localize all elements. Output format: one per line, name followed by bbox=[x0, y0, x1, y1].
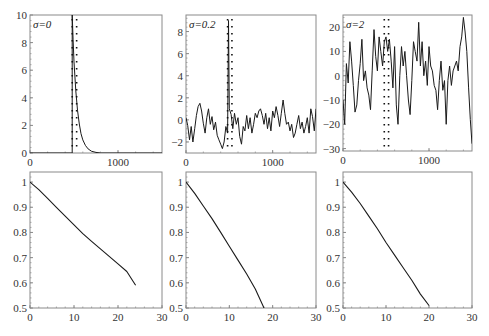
y-tick-label: 0.5 bbox=[13, 302, 27, 314]
y-tick-label: 2 bbox=[178, 92, 184, 104]
y-tick-label: 2 bbox=[22, 119, 28, 131]
y-tick-label: 0.6 bbox=[169, 277, 183, 289]
y-tick-label: 1 bbox=[335, 176, 341, 188]
y-tick-label: 0.8 bbox=[169, 226, 183, 238]
data-line bbox=[30, 15, 162, 153]
y-tick-label: 0.5 bbox=[326, 302, 340, 314]
x-tick-label: 1000 bbox=[107, 156, 130, 168]
y-tick-label: −2 bbox=[171, 136, 183, 148]
y-tick-label: 10 bbox=[329, 45, 341, 57]
y-tick-label: 6 bbox=[22, 64, 28, 76]
y-tick-label: 0.5 bbox=[169, 302, 183, 314]
x-tick-label: 1000 bbox=[418, 154, 441, 166]
x-tick-label: 1000 bbox=[262, 156, 285, 168]
plot-frame bbox=[30, 15, 162, 153]
y-tick-label: 0 bbox=[178, 114, 184, 126]
y-tick-label: 0.8 bbox=[13, 226, 27, 238]
x-tick-label: 20 bbox=[267, 311, 279, 323]
y-tick-label: 0.6 bbox=[326, 277, 340, 289]
y-tick-label: −20 bbox=[323, 118, 341, 130]
y-tick-label: 0.9 bbox=[169, 201, 183, 213]
sigma-annotation: σ=2 bbox=[346, 18, 365, 30]
y-tick-label: 20 bbox=[329, 21, 341, 33]
x-tick-label: 10 bbox=[224, 311, 236, 323]
panel-top-left: 024681001000σ=0 bbox=[16, 9, 162, 168]
plot-frame bbox=[343, 172, 472, 308]
x-tick-label: 0 bbox=[27, 311, 33, 323]
y-tick-label: 1 bbox=[178, 176, 184, 188]
x-tick-label: 10 bbox=[381, 311, 393, 323]
y-tick-label: 0.6 bbox=[13, 277, 27, 289]
y-tick-label: 4 bbox=[22, 92, 28, 104]
y-tick-label: 0 bbox=[335, 70, 341, 82]
data-line bbox=[30, 182, 136, 285]
x-tick-label: 20 bbox=[113, 311, 125, 323]
y-tick-label: 0.7 bbox=[13, 252, 27, 264]
panel-bottom-middle: 0.50.60.70.80.910102030 bbox=[169, 172, 322, 323]
y-tick-label: 0.9 bbox=[13, 201, 27, 213]
panel-top-middle: −20246801000σ=0.2 bbox=[171, 15, 316, 168]
y-tick-label: 0.9 bbox=[326, 201, 340, 213]
y-tick-label: 0.8 bbox=[326, 226, 340, 238]
data-line bbox=[343, 182, 429, 305]
plot-frame bbox=[186, 172, 316, 308]
figure: 024681001000σ=0−20246801000σ=0.2−30−20−1… bbox=[0, 0, 489, 336]
sigma-annotation: σ=0 bbox=[33, 18, 52, 30]
y-tick-label: 10 bbox=[16, 9, 28, 21]
x-tick-label: 0 bbox=[183, 156, 189, 168]
y-tick-label: 4 bbox=[178, 70, 184, 82]
panel-bottom-right: 0.50.60.70.80.910102030 bbox=[326, 172, 478, 323]
data-line bbox=[186, 182, 264, 308]
x-tick-label: 30 bbox=[311, 311, 323, 323]
x-tick-label: 20 bbox=[424, 311, 436, 323]
plot-frame bbox=[30, 172, 162, 308]
x-tick-label: 0 bbox=[340, 154, 346, 166]
y-tick-label: −30 bbox=[323, 143, 341, 155]
x-tick-label: 0 bbox=[340, 311, 346, 323]
sigma-annotation: σ=0.2 bbox=[189, 18, 216, 30]
y-tick-label: 1 bbox=[22, 176, 28, 188]
panel-top-right: −30−20−100102001000σ=2 bbox=[323, 15, 472, 166]
data-line bbox=[343, 17, 472, 143]
y-tick-label: −10 bbox=[323, 94, 341, 106]
y-tick-label: 8 bbox=[22, 37, 28, 49]
x-tick-label: 0 bbox=[27, 156, 33, 168]
y-tick-label: 0.7 bbox=[326, 252, 340, 264]
x-tick-label: 30 bbox=[467, 311, 479, 323]
data-line bbox=[186, 21, 316, 149]
x-tick-label: 30 bbox=[157, 311, 169, 323]
x-tick-label: 0 bbox=[183, 311, 189, 323]
x-tick-label: 10 bbox=[69, 311, 81, 323]
y-tick-label: 8 bbox=[178, 26, 184, 38]
y-tick-label: 0.7 bbox=[169, 252, 183, 264]
panel-bottom-left: 0.50.60.70.80.910102030 bbox=[13, 172, 168, 323]
y-tick-label: 6 bbox=[178, 48, 184, 60]
